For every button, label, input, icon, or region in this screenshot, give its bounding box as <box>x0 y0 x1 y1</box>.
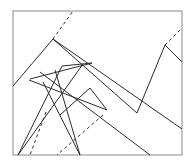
lower-center-dashed-ray <box>57 115 103 155</box>
line-art-canvas <box>0 0 196 168</box>
upper-right-dashed-ray <box>165 28 182 45</box>
figure-border-frame <box>13 11 182 155</box>
dashed-line-group <box>30 11 182 155</box>
line-art-figure <box>0 0 196 168</box>
lower-descending-diagonal <box>40 72 150 155</box>
solid-line-group <box>13 39 182 155</box>
lower-left-dashed-ray <box>30 112 46 155</box>
star-crossbar-upper <box>30 63 92 79</box>
long-descending-diagonal <box>53 39 182 129</box>
star-fan-left <box>18 66 62 155</box>
upper-left-dashed-ray <box>53 11 73 39</box>
